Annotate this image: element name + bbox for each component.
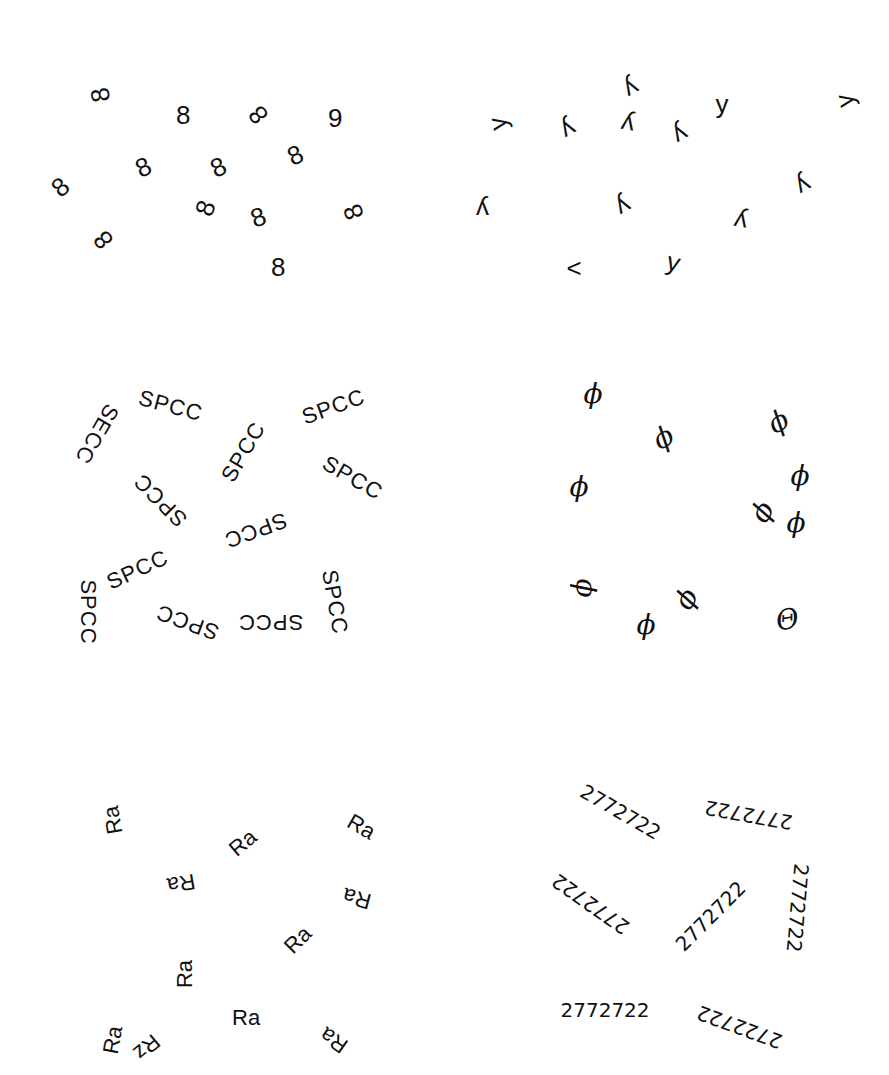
distractor-item[interactable]: ϕ [669,584,703,615]
distractor-item[interactable]: 2772722 [671,877,748,954]
distractor-item[interactable]: 2772722 [783,863,811,953]
distractor-item[interactable]: Ra [280,922,315,957]
distractor-item[interactable]: y [668,120,692,149]
distractor-item[interactable]: ϕ [791,462,810,490]
distractor-item[interactable]: ϕ [787,509,806,537]
distractor-item[interactable]: 8 [339,201,368,223]
distractor-item[interactable]: 8 [206,152,230,182]
distractor-item[interactable]: y [716,91,729,117]
target-item[interactable]: < [567,255,582,281]
distractor-item[interactable]: SPCC [299,386,368,429]
distractor-item[interactable]: y [611,192,635,221]
distractor-item[interactable]: Ra [232,1007,260,1029]
distractor-item[interactable]: Ra [341,884,374,913]
distractor-item[interactable]: Ra [165,870,197,897]
target-item[interactable]: SECC [70,400,122,467]
target-item[interactable]: 9 [328,105,342,131]
distractor-item[interactable]: Ra [100,1024,127,1056]
distractor-item[interactable]: y [556,115,580,144]
target-item[interactable]: Rz [129,1030,164,1064]
distractor-item[interactable]: SPCC [153,601,222,644]
distractor-item[interactable]: y [619,74,643,103]
distractor-item[interactable]: Ra [225,826,261,861]
distractor-item[interactable]: 8 [271,254,285,280]
distractor-item[interactable]: 8 [247,202,269,231]
distractor-item[interactable]: 8 [131,152,155,182]
distractor-item[interactable]: 8 [86,86,114,105]
distractor-item[interactable]: SPCC [238,611,303,633]
distractor-item[interactable]: SPCC [318,452,385,504]
distractor-item[interactable]: SPCC [217,418,269,485]
distractor-item[interactable]: y [483,115,511,132]
target-item[interactable]: 2722722 [694,1002,785,1051]
distractor-item[interactable]: ϕ [637,611,656,639]
distractor-item[interactable]: y [830,92,858,109]
distractor-item[interactable]: 8 [89,226,118,254]
distractor-item[interactable]: ϕ [567,578,595,597]
distractor-item[interactable]: 8 [191,197,220,219]
distractor-item[interactable]: Ra [100,804,127,836]
distractor-item[interactable]: ϕ [584,380,603,408]
distractor-item[interactable]: Ra [316,1023,352,1057]
distractor-item[interactable]: y [731,208,748,236]
distractor-item[interactable]: SPCC [136,387,205,425]
distractor-item[interactable]: y [618,111,635,139]
distractor-item[interactable]: SPCC [221,509,290,552]
distractor-item[interactable]: Ra [174,960,196,988]
distractor-item[interactable]: ϕ [648,421,679,455]
distractor-item[interactable]: SPCC [103,546,171,593]
distractor-item[interactable]: y [663,248,682,276]
distractor-item[interactable]: ϕ [570,473,589,501]
distractor-item[interactable]: 2772722 [548,870,632,937]
distractor-item[interactable]: 8 [283,140,307,170]
distractor-item[interactable]: SPCC [318,568,351,636]
distractor-item[interactable]: 8 [244,101,273,129]
distractor-item[interactable]: ϕ [763,405,794,439]
distractor-item[interactable]: SPCC [129,469,191,531]
distractor-item[interactable]: y [476,197,489,223]
distractor-item[interactable]: 2772722 [561,1000,650,1020]
distractor-item[interactable]: 2772722 [576,781,663,843]
distractor-item[interactable]: ϕ [745,497,779,528]
distractor-item[interactable]: Ra [343,810,378,843]
target-item[interactable]: Θ [773,604,800,636]
distractor-item[interactable]: y [791,171,815,200]
distractor-item[interactable]: SPCC [76,579,98,644]
distractor-item[interactable]: 8 [176,102,190,128]
distractor-item[interactable]: 8 [46,172,74,201]
distractor-item[interactable]: 2772722 [702,797,793,832]
